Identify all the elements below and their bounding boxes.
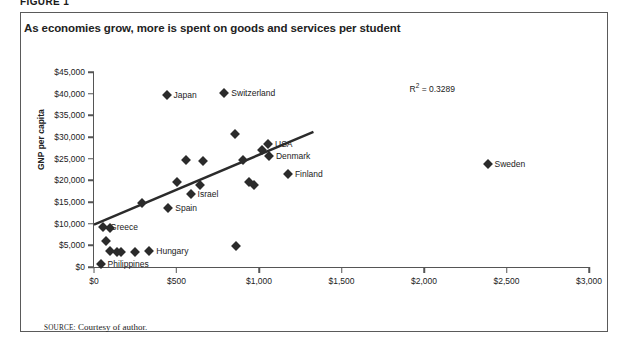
y-axis-tick: $15,000 bbox=[54, 197, 94, 207]
y-axis-tick: $10,000 bbox=[54, 219, 94, 229]
data-point-label: Philippines bbox=[108, 259, 149, 269]
data-point bbox=[249, 180, 259, 190]
y-tick-mark bbox=[88, 71, 94, 73]
x-tick-mark bbox=[423, 267, 425, 273]
data-point-label: Israel bbox=[198, 189, 219, 199]
y-tick-mark bbox=[88, 201, 94, 203]
x-axis-tick: $2,500 bbox=[494, 267, 520, 286]
data-point bbox=[172, 177, 182, 187]
x-tick-mark bbox=[176, 267, 178, 273]
data-point bbox=[162, 90, 172, 100]
y-axis-tick: $40,000 bbox=[54, 89, 94, 99]
data-point bbox=[230, 129, 240, 139]
figure-root: FIGURE 1 As economies grow, more is spen… bbox=[0, 0, 629, 360]
data-point bbox=[101, 236, 111, 246]
y-axis-tick: $35,000 bbox=[54, 110, 94, 120]
y-tick-mark bbox=[88, 136, 94, 138]
x-axis-tick: $3,000 bbox=[576, 267, 602, 286]
data-point-label: Japan bbox=[174, 90, 197, 100]
data-point bbox=[231, 241, 241, 251]
y-tick-mark bbox=[88, 93, 94, 95]
data-point bbox=[483, 159, 493, 169]
y-axis-tick: $20,000 bbox=[54, 175, 94, 185]
source-note: SOURCE: Courtesy of author. bbox=[44, 322, 147, 332]
r-squared-annotation: R2 = 0.3289 bbox=[410, 83, 455, 95]
x-axis-tick: $500 bbox=[167, 267, 186, 286]
data-point bbox=[163, 203, 173, 213]
y-tick-mark bbox=[88, 115, 94, 117]
plot-wrapper: $0$5,000$10,000$15,000$20,000$25,000$30,… bbox=[93, 72, 589, 268]
x-axis-tick: $2,000 bbox=[411, 267, 437, 286]
data-point bbox=[130, 247, 140, 257]
x-tick-mark bbox=[506, 267, 508, 273]
y-tick-mark bbox=[88, 180, 94, 182]
data-point bbox=[238, 155, 248, 165]
y-tick-mark bbox=[88, 158, 94, 160]
y-axis-label: GNP per capita bbox=[36, 109, 46, 170]
x-tick-mark bbox=[341, 267, 343, 273]
x-tick-mark bbox=[93, 267, 95, 273]
x-tick-mark bbox=[588, 267, 590, 273]
data-point bbox=[219, 88, 229, 98]
data-point-label: USA bbox=[275, 139, 292, 149]
x-axis-tick: $1,500 bbox=[329, 267, 355, 286]
y-axis-tick: $45,000 bbox=[54, 67, 94, 77]
data-point bbox=[264, 151, 274, 161]
x-tick-mark bbox=[258, 267, 260, 273]
data-point bbox=[137, 198, 147, 208]
chart-title: As economies grow, more is spent on good… bbox=[24, 22, 400, 34]
x-axis-tick: $0 bbox=[89, 267, 98, 286]
figure-number: FIGURE 1 bbox=[20, 0, 69, 7]
x-axis-tick: $1,000 bbox=[246, 267, 272, 286]
y-axis-tick: $30,000 bbox=[54, 132, 94, 142]
source-text: Courtesy of author. bbox=[76, 322, 148, 332]
data-point-label: Hungary bbox=[156, 246, 188, 256]
y-tick-mark bbox=[88, 245, 94, 247]
data-point-label: Sweden bbox=[495, 159, 526, 169]
data-point bbox=[144, 246, 154, 256]
y-axis-tick: $5,000 bbox=[59, 240, 94, 250]
y-tick-mark bbox=[88, 223, 94, 225]
data-point bbox=[181, 155, 191, 165]
trendline bbox=[94, 72, 589, 267]
data-point bbox=[283, 169, 293, 179]
data-point-label: Spain bbox=[175, 203, 197, 213]
data-point bbox=[186, 189, 196, 199]
data-point-label: Switzerland bbox=[231, 88, 275, 98]
plot-area: $0$5,000$10,000$15,000$20,000$25,000$30,… bbox=[93, 72, 589, 268]
y-axis-tick: $25,000 bbox=[54, 154, 94, 164]
data-point-label: Denmark bbox=[276, 151, 310, 161]
data-point-label: Finland bbox=[295, 169, 323, 179]
source-prefix: SOURCE: bbox=[44, 324, 76, 332]
data-point bbox=[198, 156, 208, 166]
